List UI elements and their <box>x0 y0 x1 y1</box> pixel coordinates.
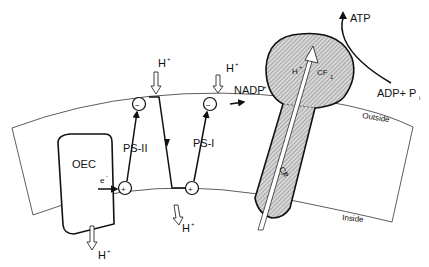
nadp-label: NADP <box>234 84 265 96</box>
svg-text:H: H <box>226 62 234 74</box>
svg-text:H: H <box>292 67 298 76</box>
ps2-label: PS-II <box>123 142 147 154</box>
svg-text:+: + <box>121 185 126 194</box>
svg-text:i: i <box>419 95 420 101</box>
svg-text:−: − <box>135 101 140 110</box>
proton-arrow-bottom: H + <box>173 205 195 234</box>
svg-text:−: − <box>206 101 211 110</box>
nadp: NADP + <box>230 84 267 104</box>
oec-complex: OEC <box>58 134 114 234</box>
thylakoid-diagram: OEC H + e - + − PS-II + − PS-I H + <box>0 0 429 267</box>
inside-label: Inside <box>342 213 365 224</box>
svg-text:+: + <box>263 84 267 90</box>
ps1-complex: + − PS-I <box>186 98 217 195</box>
ps1-label: PS-I <box>193 137 214 149</box>
outside-label: Outside <box>362 111 391 124</box>
oec-label: OEC <box>72 158 96 170</box>
proton-arrow-top-1: H + <box>151 56 171 94</box>
adp-label: ADP+ P <box>377 87 416 99</box>
svg-text:e: e <box>100 176 105 185</box>
ps2-complex: + − PS-II <box>119 98 148 195</box>
svg-text:+: + <box>235 61 239 67</box>
svg-text:-: - <box>106 173 108 179</box>
svg-text:H: H <box>158 57 166 69</box>
atp-label: ATP <box>350 12 371 24</box>
svg-text:H: H <box>182 222 190 234</box>
svg-text:+: + <box>191 221 195 227</box>
electron-transport-chain <box>149 97 190 188</box>
svg-text:H: H <box>98 249 106 261</box>
cf1-label: CF <box>317 68 328 77</box>
svg-text:+: + <box>188 185 193 194</box>
svg-text:+: + <box>167 56 171 62</box>
oec-proton-arrow: H + <box>87 226 111 261</box>
svg-text:+: + <box>107 248 111 254</box>
svg-text:+: + <box>299 64 303 70</box>
atp-synthase: H + CF 1 CF 0 <box>255 34 354 231</box>
